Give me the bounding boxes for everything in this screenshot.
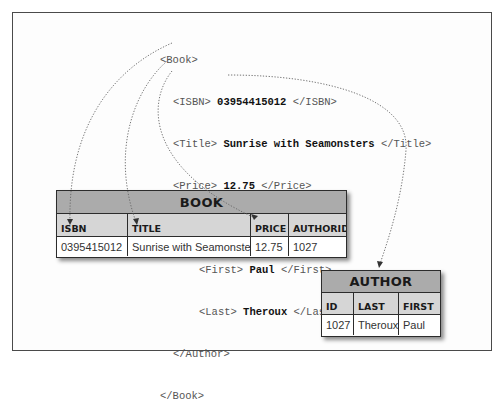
- column-header-authorid: AUTHORID: [289, 214, 346, 236]
- xml-value-title: Sunrise with Seamonsters: [223, 138, 374, 150]
- table-row: 0395415012 Sunrise with Seamonsters 12.7…: [57, 237, 346, 256]
- xml-line-title: <Title> Sunrise with Seamonsters </Title…: [160, 137, 431, 151]
- book-table: BOOK ISBN TITLE PRICE AUTHORID 039541501…: [56, 190, 347, 258]
- column-header-id: ID: [322, 293, 354, 314]
- xml-line-author-close: </Author>: [160, 347, 431, 361]
- xml-tag: </Author>: [173, 348, 230, 360]
- column-header-last: LAST: [354, 293, 399, 314]
- xml-tag: <Last>: [199, 306, 243, 318]
- xml-tag: <Title>: [173, 138, 223, 150]
- xml-tag: <ISBN>: [173, 96, 217, 108]
- table-row: 1027 Theroux Paul: [322, 315, 440, 335]
- xml-tag: <First>: [199, 264, 249, 276]
- book-table-header-row: ISBN TITLE PRICE AUTHORID: [57, 214, 346, 237]
- author-table-header-row: ID LAST FIRST: [322, 293, 440, 315]
- xml-line-isbn: <ISBN> 03954415012 </ISBN>: [160, 95, 431, 109]
- book-table-title: BOOK: [57, 191, 346, 214]
- xml-value-isbn: 03954415012: [217, 96, 286, 108]
- author-table: AUTHOR ID LAST FIRST 1027 Theroux Paul: [321, 270, 441, 337]
- cell-first: Paul: [399, 315, 440, 335]
- xml-line-book-open: <Book>: [160, 53, 431, 67]
- xml-value-first: Paul: [249, 264, 274, 276]
- author-table-title: AUTHOR: [322, 271, 440, 293]
- column-header-title: TITLE: [128, 214, 251, 236]
- column-header-first: FIRST: [399, 293, 440, 314]
- column-header-price: PRICE: [251, 214, 289, 236]
- cell-isbn: 0395415012: [57, 237, 128, 256]
- cell-authorid: 1027: [289, 237, 346, 256]
- xml-line-book-close: </Book>: [160, 389, 431, 403]
- column-header-isbn: ISBN: [57, 214, 128, 236]
- xml-tag: </ISBN>: [286, 96, 336, 108]
- xml-tag: <Book>: [160, 54, 198, 66]
- xml-tag: </Book>: [160, 390, 204, 402]
- cell-id: 1027: [322, 315, 354, 335]
- cell-last: Theroux: [354, 315, 399, 335]
- cell-price: 12.75: [251, 237, 289, 256]
- cell-title: Sunrise with Seamonsters: [128, 237, 251, 256]
- xml-value-last: Theroux: [243, 306, 287, 318]
- xml-tag: </Title>: [375, 138, 432, 150]
